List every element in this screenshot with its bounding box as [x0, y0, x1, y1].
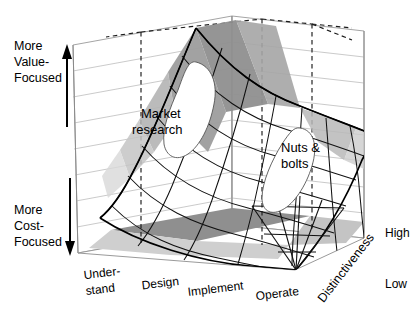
- x-tick-design: Design: [141, 274, 180, 292]
- cost-focused-label: More Cost- Focused: [14, 203, 62, 249]
- x-tick-understand-line1: Under-: [83, 264, 121, 282]
- x-tick-operate: Operate: [255, 284, 300, 303]
- x-axis-tick-understand: Under- stand: [83, 264, 123, 298]
- cost-focused-line3: Focused: [14, 235, 62, 249]
- vertical-axis-arrows: [62, 44, 75, 256]
- market-research-line1: Market: [141, 106, 181, 121]
- x-axis-tick-operate: Operate: [255, 284, 300, 303]
- x-axis-tick-design: Design: [141, 274, 180, 292]
- z-tick-high: High: [385, 226, 410, 240]
- figure-container: Market research Nuts & bolts More Value-…: [0, 0, 414, 311]
- surface-plot-3d: Market research Nuts & bolts More Value-…: [0, 0, 414, 311]
- nuts-and-bolts-line2: bolts: [281, 156, 309, 171]
- nuts-and-bolts-line1: Nuts &: [281, 140, 320, 155]
- value-focused-line1: More: [14, 39, 43, 53]
- value-focused-line3: Focused: [14, 71, 62, 85]
- x-tick-implement: Implement: [187, 278, 245, 299]
- cost-focused-line2: Cost-: [14, 219, 44, 233]
- down-arrow-icon: [65, 178, 75, 256]
- z-tick-low: Low: [385, 277, 407, 291]
- cost-focused-line1: More: [14, 203, 43, 217]
- up-arrow-icon: [62, 44, 72, 127]
- x-axis-tick-implement: Implement: [187, 278, 245, 299]
- value-focused-line2: Value-: [14, 55, 49, 69]
- value-focused-label: More Value- Focused: [14, 39, 62, 85]
- x-tick-understand-line2: stand: [85, 281, 116, 298]
- market-research-line2: research: [132, 122, 183, 137]
